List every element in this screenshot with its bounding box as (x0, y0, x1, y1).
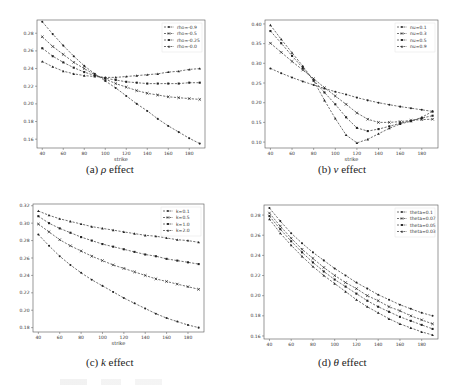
chart-panel-rho: 4060801001201401601800.160.180.200.220.2… (0, 0, 226, 160)
legend-label: nu=0.5 (410, 38, 427, 43)
cropped-text-line (60, 379, 400, 385)
marker-circle-icon (168, 26, 170, 28)
marker-square-icon (334, 279, 336, 281)
marker-square-icon (399, 316, 401, 318)
marker-circle-icon (187, 324, 189, 326)
chart-panel-nu: 4060801001201401601800.100.150.200.250.3… (226, 0, 452, 160)
y-tick-label: 0.16 (250, 334, 260, 339)
x-tick-label: 60 (57, 335, 63, 340)
legend-label: k=0.5 (176, 215, 190, 220)
marker-circle-icon (268, 207, 270, 209)
marker-circle-icon (178, 131, 180, 133)
chart-panel-k: 4060801001201401601800.180.200.220.240.2… (0, 195, 226, 355)
marker-square-icon (62, 61, 64, 63)
marker-circle-icon (91, 279, 93, 281)
marker-square-icon (301, 251, 303, 253)
legend-label: nu=0.9 (410, 44, 427, 49)
marker-square-icon (269, 30, 271, 32)
marker-square-icon (73, 67, 75, 69)
legend-label: rho=-0.5 (177, 31, 197, 36)
x-axis-label: strike (114, 156, 128, 162)
marker-square-icon (146, 83, 148, 85)
marker-square-icon (355, 293, 357, 295)
marker-circle-icon (421, 109, 423, 111)
marker-circle-icon (355, 282, 357, 284)
marker-circle-icon (280, 72, 282, 74)
marker-circle-icon (366, 288, 368, 290)
marker-square-icon (155, 255, 157, 257)
legend-label: theta=0.07 (410, 216, 436, 221)
marker-circle-icon (410, 107, 412, 109)
y-tick-label: 0.28 (250, 213, 260, 218)
y-tick-label: 0.16 (23, 137, 33, 142)
marker-circle-icon (279, 220, 281, 222)
marker-circle-icon (167, 210, 169, 212)
marker-square-icon (125, 81, 127, 83)
chart-theta: 4060801001201401601800.160.180.200.220.2… (226, 195, 452, 355)
legend-label: rho=-0.25 (177, 38, 200, 43)
marker-square-icon (323, 91, 325, 93)
marker-square-icon (112, 246, 114, 248)
x-tick-label: 40 (39, 151, 45, 156)
caption-nu: (b) ν effect (318, 163, 366, 175)
caption-label: (d) (318, 356, 331, 368)
x-axis-label: strike (112, 340, 126, 346)
x-tick-label: 60 (60, 151, 66, 156)
caption-label: (b) (318, 163, 331, 175)
marker-circle-icon (410, 308, 412, 310)
x-tick-label: 40 (35, 335, 41, 340)
marker-square-icon (41, 47, 43, 49)
marker-circle-icon (302, 80, 304, 82)
marker-circle-icon (167, 125, 169, 127)
marker-square-icon (268, 215, 270, 217)
marker-circle-icon (313, 84, 315, 86)
x-tick-label: 100 (98, 335, 107, 340)
marker-circle-icon (62, 45, 64, 47)
marker-circle-icon (146, 110, 148, 112)
marker-circle-icon (401, 211, 403, 213)
marker-square-icon (83, 71, 85, 73)
marker-circle-icon (323, 259, 325, 261)
marker-circle-icon (176, 321, 178, 323)
marker-circle-icon (399, 106, 401, 108)
x-tick-label: 100 (101, 151, 110, 156)
marker-circle-icon (112, 291, 114, 293)
x-tick-label: 180 (185, 151, 194, 156)
caption-symbol: θ (334, 356, 339, 368)
marker-circle-icon (290, 232, 292, 234)
legend-label: theta=0.03 (410, 229, 436, 234)
x-tick-label: 140 (374, 342, 383, 347)
marker-circle-icon (125, 95, 127, 97)
x-tick-label: 120 (352, 342, 361, 347)
marker-square-icon (178, 83, 180, 85)
caption-label: (c) (86, 356, 98, 368)
marker-circle-icon (157, 118, 159, 120)
marker-square-icon (291, 55, 293, 57)
marker-square-icon (432, 328, 434, 330)
x-tick-label: 60 (288, 342, 294, 347)
caption-symbol: ν (334, 163, 339, 175)
marker-square-icon (401, 224, 403, 226)
y-tick-label: 0.32 (19, 203, 29, 208)
marker-square-icon (279, 228, 281, 230)
marker-square-icon (166, 258, 168, 260)
y-tick-label: 0.24 (23, 66, 33, 71)
marker-square-icon (366, 300, 368, 302)
y-tick-label: 0.28 (19, 238, 29, 243)
marker-square-icon (345, 286, 347, 288)
y-tick-label: 0.15 (251, 120, 261, 125)
x-tick-label: 160 (164, 151, 173, 156)
x-tick-label: 140 (143, 151, 152, 156)
marker-square-icon (80, 236, 82, 238)
marker-circle-icon (166, 317, 168, 319)
marker-square-icon (115, 79, 117, 81)
y-tick-label: 0.18 (250, 313, 260, 318)
y-tick-label: 0.20 (23, 101, 33, 106)
marker-circle-icon (367, 99, 369, 101)
legend-label: rho=-0.0 (177, 44, 197, 49)
marker-square-icon (312, 261, 314, 263)
marker-square-icon (157, 83, 159, 85)
marker-square-icon (101, 243, 103, 245)
marker-square-icon (377, 128, 379, 130)
y-tick-label: 0.22 (23, 84, 33, 89)
